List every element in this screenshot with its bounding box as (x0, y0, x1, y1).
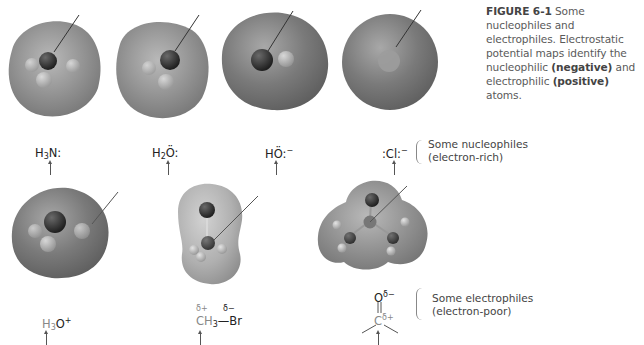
arrow-up-icon (168, 163, 169, 175)
arrow-up-icon (46, 333, 47, 345)
hydronium-map (12, 188, 118, 279)
bromomethane-left-delta: δ+ (196, 304, 208, 313)
arrow-up-icon (276, 163, 277, 175)
bromomethane-map (178, 184, 258, 284)
carbonyl-carbon: Cδ+ (374, 313, 394, 328)
bromomethane-right-delta: δ− (223, 304, 235, 313)
chloride-map (342, 10, 438, 110)
ammonia-map (9, 15, 101, 116)
arrow-up-icon (378, 333, 379, 345)
bromomethane-formula: CH3—Br (196, 314, 242, 329)
nucleophile-brace (416, 140, 422, 164)
water-formula: H2Ö: (152, 146, 178, 161)
water-map (116, 15, 208, 118)
carbonyl-map (318, 181, 428, 270)
ammonia-potential-map (0, 0, 644, 345)
ammonia-formula: H3N: (35, 146, 61, 161)
hydroxide-formula: HÖ:− (265, 146, 293, 161)
carbonyl-oxygen: Oδ− (374, 290, 395, 305)
electrophile-group-label: Some electrophiles (electron-poor) (432, 292, 533, 318)
arrow-up-icon (50, 163, 51, 175)
nucleophile-group-label: Some nucleophiles (electron-rich) (428, 138, 528, 164)
hydroxide-map (222, 11, 328, 110)
electrophile-brace (416, 288, 422, 320)
arrow-up-icon (394, 163, 395, 175)
arrow-up-icon (200, 333, 201, 345)
chloride-formula: :Cl:− (382, 146, 408, 161)
